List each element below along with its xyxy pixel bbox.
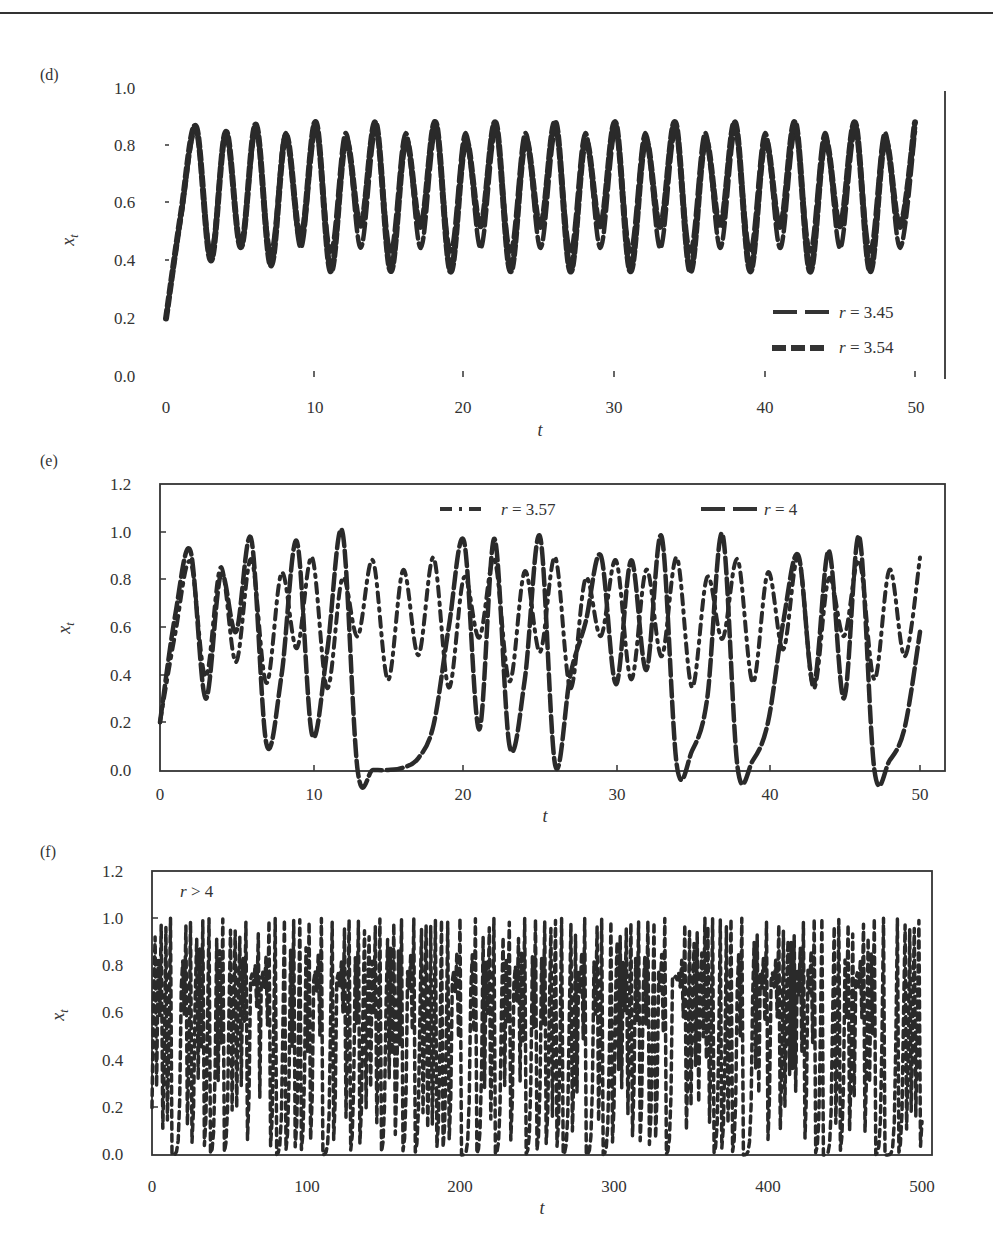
x-tick-label: 10 xyxy=(307,398,324,417)
series-line-0 xyxy=(152,918,922,1155)
panel-d-plot-area xyxy=(166,122,915,319)
panel-d-yticks: 1.0 0.8 0.6 0.4 0.2 0.0 xyxy=(114,79,169,386)
y-tick-label: 0.6 xyxy=(114,193,135,212)
y-tick-label: 1.0 xyxy=(114,79,135,98)
panel-e-legend: r = 3.57 r = 4 xyxy=(440,500,798,519)
panel-e-label: (e) xyxy=(40,452,58,470)
panel-f-annotation: r > 4 xyxy=(180,882,214,901)
y-tick-label: 0.4 xyxy=(110,666,132,685)
x-tick-label: 500 xyxy=(909,1177,935,1196)
y-tick-label: 0.2 xyxy=(114,309,135,328)
y-tick-label: 1.0 xyxy=(110,523,131,542)
y-tick-label: 0.8 xyxy=(110,570,131,589)
legend-label: r = 3.57 xyxy=(501,500,556,519)
x-tick-label: 0 xyxy=(156,785,165,804)
y-tick-label: 0.4 xyxy=(114,251,136,270)
x-tick-label: 50 xyxy=(908,398,925,417)
panel-f-x-axis-title: t xyxy=(539,1198,545,1218)
panel-f-plot-area xyxy=(152,918,922,1155)
x-tick-label: 300 xyxy=(601,1177,627,1196)
series-line-1 xyxy=(166,122,915,319)
y-tick-label: 1.2 xyxy=(102,862,123,881)
panel-f-label: (f) xyxy=(40,843,56,861)
y-tick-label: 0.0 xyxy=(102,1145,123,1164)
y-tick-label: 0.2 xyxy=(102,1098,123,1117)
x-tick-label: 50 xyxy=(912,785,929,804)
panel-d-y-axis-title: xt xyxy=(58,234,81,247)
panel-d: (d) 1.0 0.8 0.6 0.4 0.2 0.0 0 10 20 30 4… xyxy=(40,66,945,440)
x-tick-label: 0 xyxy=(162,398,171,417)
y-tick-label: 1.0 xyxy=(102,909,123,928)
legend-label: r = 3.54 xyxy=(839,338,894,357)
panel-e-y-axis-title: xt xyxy=(54,622,77,635)
panel-e-yticks: 1.2 1.0 0.8 0.6 0.4 0.2 0.0 xyxy=(110,475,166,780)
panel-e-plot-area xyxy=(160,529,920,787)
figure: (d) 1.0 0.8 0.6 0.4 0.2 0.0 0 10 20 30 4… xyxy=(0,0,993,1247)
x-tick-label: 30 xyxy=(609,785,626,804)
panel-f-xticks: 0 100 200 300 400 500 xyxy=(148,1177,935,1196)
x-tick-label: 10 xyxy=(306,785,323,804)
panel-f-yticks: 1.2 1.0 0.8 0.6 0.4 0.2 0.0 xyxy=(102,862,158,1164)
panel-d-xticks: 0 10 20 30 40 50 xyxy=(162,371,925,417)
y-tick-label: 0.8 xyxy=(102,956,123,975)
x-tick-label: 40 xyxy=(757,398,774,417)
x-tick-label: 40 xyxy=(762,785,779,804)
x-tick-label: 20 xyxy=(455,785,472,804)
y-tick-label: 0.2 xyxy=(110,713,131,732)
panel-e-x-axis-title: t xyxy=(542,806,548,826)
x-tick-label: 100 xyxy=(294,1177,320,1196)
x-tick-label: 20 xyxy=(455,398,472,417)
y-tick-label: 0.0 xyxy=(114,367,135,386)
y-tick-label: 0.0 xyxy=(110,761,131,780)
legend-label: r = 4 xyxy=(764,500,798,519)
y-tick-label: 0.4 xyxy=(102,1051,124,1070)
panel-f: (f) 1.2 1.0 0.8 0.6 0.4 0.2 0.0 0 100 20… xyxy=(40,843,935,1218)
x-tick-label: 0 xyxy=(148,1177,157,1196)
panel-e: (e) 1.2 1.0 0.8 0.6 0.4 0.2 0.0 0 10 20 … xyxy=(40,452,945,826)
panel-d-legend: r = 3.45 r = 3.54 xyxy=(772,303,894,357)
series-line-1 xyxy=(160,529,920,787)
y-tick-label: 0.6 xyxy=(110,618,131,637)
panel-d-label: (d) xyxy=(40,66,59,84)
y-tick-label: 0.8 xyxy=(114,136,135,155)
x-tick-label: 200 xyxy=(447,1177,473,1196)
x-tick-label: 400 xyxy=(755,1177,781,1196)
y-tick-label: 1.2 xyxy=(110,475,131,494)
legend-label: r = 3.45 xyxy=(839,303,893,322)
x-tick-label: 30 xyxy=(606,398,623,417)
panel-d-x-axis-title: t xyxy=(537,420,543,440)
panel-f-y-axis-title: xt xyxy=(48,1009,71,1022)
y-tick-label: 0.6 xyxy=(102,1003,123,1022)
